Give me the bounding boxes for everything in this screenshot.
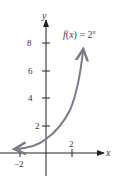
y-tick-label-6: 6 [28,66,33,76]
x-axis-label: x [105,147,111,158]
exponential-curve [16,51,83,149]
y-ticks: 8 6 4 2 [27,38,50,131]
y-tick-label-2: 2 [35,121,40,131]
y-tick-label-4: 4 [28,93,33,103]
x-ticks: −2 2 [14,139,74,169]
exponential-graph: x y 8 6 4 2 −2 2 f(x) = 2x [0,0,118,190]
y-axis-label: y [41,10,47,21]
y-tick-label-8: 8 [27,38,32,48]
function-label: f(x) = 2x [63,28,97,41]
x-tick-label-neg2: −2 [14,159,24,169]
x-tick-label-2: 2 [69,139,74,149]
